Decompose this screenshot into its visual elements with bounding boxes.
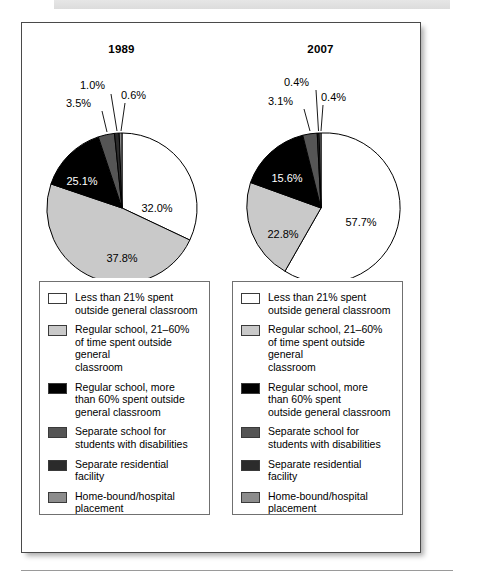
pie-label-1989-1: 32.0% [141,202,172,214]
legend-swatch-white-icon [48,293,67,304]
legend-label-1989-4: Separate school for students with disabi… [75,425,188,450]
legend-item-2007-3[interactable]: Regular school, more than 60% spent outs… [241,381,396,419]
legend-item-1989-1[interactable]: Less than 21% spent outside general clas… [48,291,203,316]
legend-swatch-white-icon [241,293,260,304]
legend-item-2007-5[interactable]: Separate residential facility [241,458,396,483]
leader-line-1989-5 [111,94,117,131]
legend-swatch-black-icon [48,383,67,394]
legend-item-1989-4[interactable]: Separate school for students with disabi… [48,425,203,450]
legend-swatch-black-icon [241,383,260,394]
legend-label-2007-3: Regular school, more than 60% spent outs… [268,381,391,419]
legend-label-1989-5: Separate residential facility [75,458,168,483]
top-banner-strip [54,0,450,9]
legend-item-1989-5[interactable]: Separate residential facility [48,458,203,483]
legend-swatch-medium-gray-icon [48,492,67,503]
panel-title-1989: 1989 [22,43,221,55]
legend-label-2007-6: Home-bound/hospital placement [268,490,368,515]
legend-label-2007-5: Separate residential facility [268,458,361,483]
legend-label-1989-3: Regular school, more than 60% spent outs… [75,381,185,419]
leader-line-2007-5 [316,90,319,131]
legend-item-1989-3[interactable]: Regular school, more than 60% spent outs… [48,381,203,419]
legend-1989: Less than 21% spent outside general clas… [39,281,210,515]
legend-swatch-medium-gray-icon [241,492,260,503]
legend-2007: Less than 21% spent outside general clas… [232,281,403,515]
pie-label-2007-1: 57.7% [345,216,376,228]
leader-line-2007-6 [321,105,323,131]
figure-frame: 1989 32.0% [21,22,421,553]
panel-2007: 2007 57.7% 22.8% 15. [221,23,420,552]
pie-chart-1989: 32.0% 37.8% 25.1% 3.5% 1.0% 0.6% [22,63,221,278]
legend-item-1989-6[interactable]: Home-bound/hospital placement [48,490,203,515]
pie-label-2007-2: 22.8% [267,228,298,240]
bottom-divider [21,570,453,571]
leader-line-1989-6 [121,103,125,131]
legend-swatch-dark-gray-icon [48,427,67,438]
legend-label-2007-2: Regular school, 21–60% of time spent out… [268,323,396,373]
leader-line-2007-4 [304,109,310,131]
legend-swatch-near-black-icon [241,460,260,471]
pie-label-2007-6: 0.4% [321,91,346,103]
pie-chart-2007: 57.7% 22.8% 15.6% 3.1% 0.4% 0.4% [221,63,420,278]
pie-label-1989-5: 1.0% [80,79,105,91]
legend-item-2007-1[interactable]: Less than 21% spent outside general clas… [241,291,396,316]
legend-swatch-dark-gray-icon [241,427,260,438]
pie-svg-2007: 57.7% 22.8% 15.6% 3.1% 0.4% 0.4% [221,63,421,278]
leader-line-1989-4 [102,111,107,132]
pie-svg-1989: 32.0% 37.8% 25.1% 3.5% 1.0% 0.6% [22,63,222,278]
legend-swatch-near-black-icon [48,460,67,471]
legend-label-2007-1: Less than 21% spent outside general clas… [268,291,391,316]
pie-label-2007-5: 0.4% [284,76,309,88]
legend-swatch-light-gray-icon [241,325,260,336]
panel-title-2007: 2007 [221,43,420,55]
pie-label-2007-4: 3.1% [268,95,293,107]
legend-item-2007-6[interactable]: Home-bound/hospital placement [241,490,396,515]
legend-swatch-light-gray-icon [48,325,67,336]
panels-container: 1989 32.0% [22,23,420,552]
legend-item-2007-2[interactable]: Regular school, 21–60% of time spent out… [241,323,396,373]
legend-item-1989-2[interactable]: Regular school, 21–60% of time spent out… [48,323,203,373]
legend-label-1989-1: Less than 21% spent outside general clas… [75,291,198,316]
pie-label-1989-4: 3.5% [66,97,91,109]
legend-item-2007-4[interactable]: Separate school for students with disabi… [241,425,396,450]
legend-label-1989-2: Regular school, 21–60% of time spent out… [75,323,203,373]
pie-label-1989-6: 0.6% [121,89,146,101]
legend-label-2007-4: Separate school for students with disabi… [268,425,381,450]
pie-label-1989-3: 25.1% [66,175,97,187]
pie-label-2007-3: 15.6% [271,172,302,184]
panel-1989: 1989 32.0% [22,23,221,552]
pie-label-1989-2: 37.8% [106,252,137,264]
legend-label-1989-6: Home-bound/hospital placement [75,490,175,515]
